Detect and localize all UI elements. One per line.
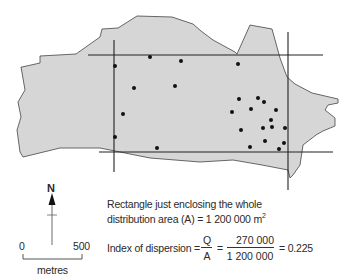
formula-equals: = (217, 243, 223, 254)
formula-q: Q (202, 234, 212, 246)
north-arrow-icon (47, 193, 57, 245)
scale-start-label: 0 (19, 241, 25, 252)
scale-unit-label: metres (37, 265, 68, 276)
formula-label: Index of dispersion = (107, 243, 200, 254)
formula-denominator: 1 200 000 (226, 250, 274, 262)
annotation-line2: distribution area (A) = 1 200 000 m2 (107, 210, 266, 225)
formula-result: = 0.225 (279, 243, 313, 254)
study-area-polygon (17, 16, 338, 178)
distribution-map (0, 0, 353, 278)
scale-end-label: 500 (73, 241, 90, 252)
scale-bar (23, 254, 82, 259)
fraction-line-values (227, 247, 274, 248)
annotation-line1: Rectangle just enclosing the whole (107, 199, 262, 210)
formula-a: A (202, 250, 212, 262)
fraction-line-qa (201, 247, 212, 248)
north-label: N (47, 183, 55, 194)
formula-numerator: 270 000 (228, 234, 274, 246)
